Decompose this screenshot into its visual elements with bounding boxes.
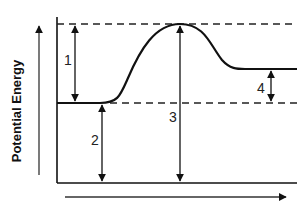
- label-3: 3: [169, 110, 177, 124]
- label-1: 1: [64, 53, 72, 67]
- y-axis-label: Potential Energy: [9, 60, 24, 163]
- label-2: 2: [91, 133, 99, 147]
- label-4: 4: [257, 81, 265, 95]
- energy-diagram: [0, 0, 307, 208]
